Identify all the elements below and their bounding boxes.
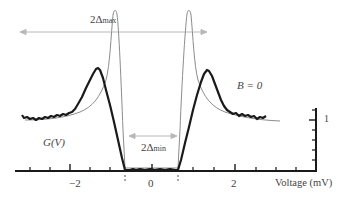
delta-min-sub: min	[154, 144, 166, 153]
x-tick-label-0: 0	[148, 177, 154, 189]
tunneling-conductance-chart: 2Δmax 2Δmin B = 0 G(V) −2 0 2 Voltage (m…	[0, 0, 346, 198]
measured-conductance-curve	[22, 68, 266, 170]
delta-min-main: 2Δ	[141, 141, 154, 153]
x-axis-label: Voltage (mV)	[275, 177, 332, 188]
x-tick-label-neg2: −2	[69, 177, 81, 189]
g-of-v-label: G(V)	[43, 136, 65, 148]
b-field-label: B = 0	[237, 79, 262, 91]
y-tick-label-1: 1	[324, 113, 329, 124]
delta-min-arrow	[129, 134, 177, 139]
delta-max-sub: max	[103, 16, 117, 25]
delta-min-label: 2Δmin	[141, 141, 166, 153]
y-axis	[309, 108, 316, 171]
delta-max-arrow	[20, 30, 207, 35]
x-tick-label-2: 2	[231, 177, 237, 189]
delta-max-main: 2Δ	[90, 13, 103, 25]
delta-max-label: 2Δmax	[90, 13, 116, 25]
